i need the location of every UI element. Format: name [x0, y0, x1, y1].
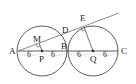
point-p-dot [41, 50, 43, 52]
geometry-diagram: A P B Q C M D E 6 6 6 6 [0, 0, 136, 84]
segment-pm [39, 43, 42, 51]
label-q: Q [90, 54, 97, 64]
point-q-dot [92, 50, 94, 52]
length-ap: 6 [27, 50, 31, 59]
length-qc: 6 [103, 50, 107, 59]
label-e: E [80, 13, 86, 23]
label-p: P [39, 54, 44, 64]
length-bq: 6 [77, 50, 81, 59]
label-a: A [9, 46, 16, 56]
label-c: C [121, 46, 127, 56]
segment-qe [84, 27, 93, 51]
label-m: M [33, 34, 41, 44]
label-b: B [61, 41, 67, 51]
length-pb: 6 [51, 50, 55, 59]
label-d: D [62, 25, 69, 35]
